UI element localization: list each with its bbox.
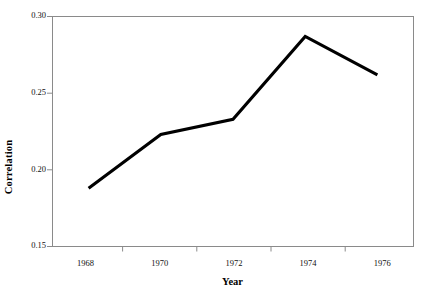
x-axis-title-label: Year — [222, 276, 243, 287]
x-tick-1972: 1972 — [204, 252, 264, 270]
y-axis-title-label: Correlation — [3, 140, 14, 195]
plot-frame — [53, 17, 414, 247]
x-tick-1976: 1976 — [352, 252, 412, 270]
x-tick-1970: 1970 — [130, 252, 190, 270]
y-axis-title: Correlation — [0, 0, 16, 298]
x-tick-label: 1968 — [77, 258, 94, 268]
x-tick-label: 1970 — [151, 258, 168, 268]
chart-container: 0.30 0.25 0.20 0.15 1968 1970 1972 1974 … — [0, 0, 425, 298]
x-tick-label: 1974 — [300, 258, 317, 268]
x-tick-1968: 1968 — [56, 252, 116, 270]
y-axis-ticks — [47, 17, 53, 247]
x-axis-ticks — [123, 247, 346, 252]
x-tick-label: 1972 — [225, 258, 242, 268]
x-tick-1974: 1974 — [278, 252, 338, 270]
x-axis-title: Year — [52, 276, 413, 287]
x-tick-label: 1976 — [374, 258, 391, 268]
